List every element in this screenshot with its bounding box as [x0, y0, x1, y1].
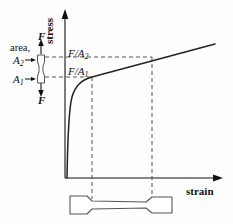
force-top-label: F [38, 31, 45, 42]
stress-strain-curve [67, 44, 215, 178]
area-label: area, [10, 43, 30, 54]
x-axis-label: strain [186, 186, 214, 197]
dogbone-specimen-inset [70, 196, 172, 214]
force-bottom-label: F [38, 95, 45, 106]
area-upper-label: A2 [13, 55, 24, 68]
area-lower-symbol: A [13, 73, 20, 85]
stress-level-lower-subscript: 1 [85, 70, 89, 79]
area-lower-subscript: 1 [20, 78, 24, 87]
x-axis [65, 175, 223, 182]
stress-level-upper-label: F/A2 [68, 48, 89, 61]
stress-strain-figure: stress strain area, A2 A1 F F F/A2 F/A1 [0, 0, 233, 224]
stress-level-lower-label: F/A1 [68, 66, 89, 79]
area-lower-label: A1 [13, 74, 24, 87]
area-upper-symbol: A [13, 54, 20, 66]
area-pointer-arrows [25, 58, 36, 81]
stress-level-upper-subscript: 2 [85, 52, 89, 61]
stress-level-lower-symbol: F/A [68, 65, 85, 77]
y-axis-label: stress [44, 10, 55, 52]
stress-level-upper-symbol: F/A [68, 47, 85, 59]
area-upper-subscript: 2 [20, 59, 24, 68]
